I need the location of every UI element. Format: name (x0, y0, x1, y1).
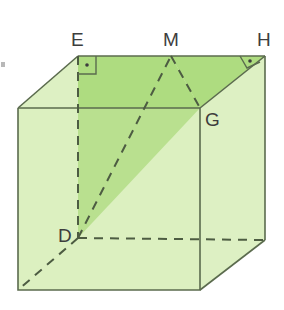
vertex-label-e: E (71, 30, 84, 49)
vertex-label-m: M (163, 30, 179, 49)
vertex-label-d: D (58, 226, 72, 245)
vertex-label-g: G (205, 110, 220, 129)
right-angle-dot-e (85, 63, 89, 67)
scan-edge-artifact (1, 62, 5, 67)
vertex-label-h: H (257, 30, 271, 49)
cube-svg (0, 0, 284, 310)
right-angle-dot-h (248, 59, 252, 63)
cube-diagram: E M H G D (0, 0, 284, 310)
